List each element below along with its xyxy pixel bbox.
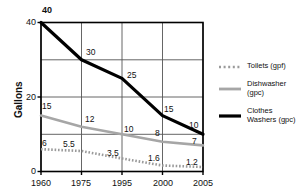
- value-label-clothes-washers-2000: 15: [164, 104, 173, 114]
- value-label-clothes-washers-1960: 40: [42, 5, 52, 15]
- value-label-clothes-washers-2005: 10: [189, 120, 198, 130]
- legend-swatch-clothes-washers: [219, 113, 241, 119]
- value-label-dishwasher-1995: 10: [124, 124, 133, 134]
- value-label-toilets-2005: 1.2: [186, 157, 198, 167]
- value-label-toilets-1960: 6: [42, 138, 47, 148]
- value-label-dishwasher-1975: 12: [85, 114, 94, 124]
- value-label-dishwasher-2005: 7: [192, 136, 197, 146]
- value-label-dishwasher-1960: 15: [42, 101, 51, 111]
- value-label-dishwasher-2000: 8: [155, 128, 160, 138]
- value-label-toilets-1995: 3.5: [107, 148, 119, 158]
- legend-swatch-dishwasher: [219, 86, 241, 92]
- value-label-clothes-washers-1995: 25: [127, 70, 136, 80]
- legend-label-clothes-washers-line1: Clothes: [247, 106, 272, 115]
- legend-swatch-toilets: [219, 64, 241, 70]
- value-label-toilets-2000: 1.6: [148, 153, 160, 163]
- value-label-clothes-washers-1975: 30: [86, 47, 95, 57]
- legend-label-clothes-washers-line2: Washers (gpc): [247, 115, 295, 124]
- legend-label-dishwasher-line2: (gpc): [247, 88, 264, 97]
- plot-area: [0, 0, 301, 194]
- value-label-toilets-1975: 5.5: [63, 139, 75, 149]
- legend-label-toilets: Toilets (gpf): [247, 61, 286, 70]
- chart-container: Gallons 40 20 0 1960 1975 1995 2000 2005: [0, 0, 301, 194]
- legend-label-dishwasher-line1: Dishwasher: [247, 79, 286, 88]
